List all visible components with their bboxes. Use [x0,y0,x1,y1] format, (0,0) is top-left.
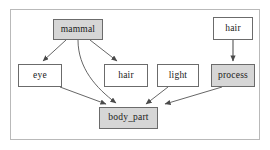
edge-mammal-eye [43,40,66,61]
node-label: hair [118,71,134,81]
node-process[interactable]: process [211,64,255,87]
node-eye[interactable]: eye [18,64,62,87]
node-label: body_part [108,113,148,123]
edge-process-body-part [165,87,222,104]
node-label: hair [225,24,241,34]
node-label: process [218,71,248,81]
edge-light-body-part [146,87,168,104]
edge-mammal-hair [90,40,117,61]
node-hair-middle[interactable]: hair [104,64,148,87]
node-hair-top[interactable]: hair [213,17,253,40]
node-body-part[interactable]: body_part [99,107,158,129]
node-mammal[interactable]: mammal [53,19,103,40]
node-label: light [169,71,187,81]
node-label: eye [33,71,47,81]
node-light[interactable]: light [157,64,199,87]
node-label: mammal [61,25,95,35]
diagram-canvas: mammal hair eye hair light process body_… [0,0,270,150]
edge-eye-body-part [60,87,106,104]
